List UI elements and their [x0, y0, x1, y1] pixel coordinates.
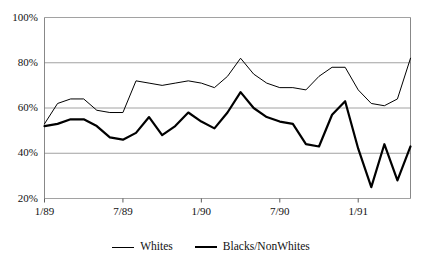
line-chart: 100%80%60%40%20% 1/897/891/907/901/91 Wh…	[0, 0, 422, 263]
x-tick-label: 7/89	[100, 206, 146, 217]
chart-legend: Whites Blacks/NonWhites	[0, 236, 422, 258]
y-tick-label: 100%	[0, 12, 38, 23]
x-axis-ticks	[45, 199, 359, 203]
y-tick-label: 20%	[0, 193, 38, 204]
legend-label-blacks-nonwhites: Blacks/NonWhites	[223, 241, 310, 253]
legend-line-icon-whites	[112, 247, 134, 248]
y-tick-label: 40%	[0, 147, 38, 158]
legend-line-icon-blacks-nonwhites	[195, 246, 217, 248]
data-series-group	[45, 58, 411, 187]
y-tick-label: 80%	[0, 57, 38, 68]
legend-item-whites: Whites	[112, 241, 173, 253]
x-tick-label: 1/90	[178, 206, 224, 217]
x-tick-label: 1/89	[22, 206, 68, 217]
plot-area	[0, 0, 422, 263]
x-tick-label: 7/90	[257, 206, 303, 217]
y-tick-label: 60%	[0, 102, 38, 113]
series-line-blacks-nonwhites	[45, 92, 411, 187]
legend-item-blacks-nonwhites: Blacks/NonWhites	[195, 241, 310, 253]
x-tick-label: 1/91	[335, 206, 381, 217]
legend-label-whites: Whites	[140, 241, 173, 253]
gridlines	[45, 18, 411, 199]
